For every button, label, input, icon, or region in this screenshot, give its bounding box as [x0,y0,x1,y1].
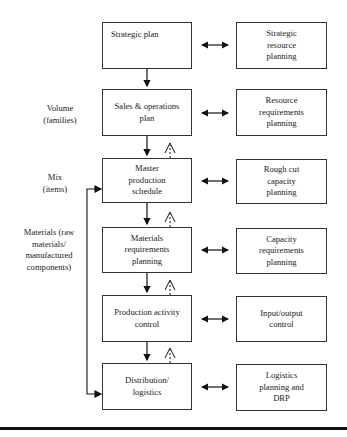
arrows-layer [0,0,347,437]
feedback-arrows [165,143,175,363]
bidirectional-arrows [202,45,228,387]
materials-bracket [87,186,101,397]
bottom-rule [0,427,347,430]
